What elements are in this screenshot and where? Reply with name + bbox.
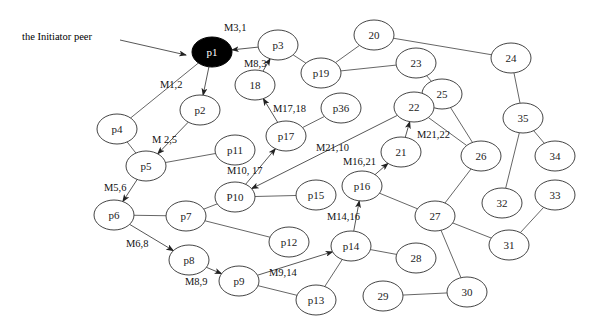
initiator-pointer-arrow (120, 40, 186, 55)
peer-node-p17: p17 (266, 121, 306, 151)
peer-node-30: 30 (447, 277, 487, 307)
peer-node-label: p9 (234, 275, 246, 287)
peer-node-p5: p5 (126, 151, 166, 181)
message-arrow-p16-21 (375, 163, 388, 174)
peer-node-label: p11 (227, 144, 243, 156)
initiator-label: the Initiator peer (22, 31, 92, 42)
peer-node-label: 35 (518, 112, 530, 124)
peer-node-24: 24 (491, 43, 531, 73)
peer-node-label: p14 (343, 240, 360, 252)
peer-node-35: 35 (503, 103, 543, 133)
peer-node-label: 29 (378, 290, 390, 302)
peer-node-label: 30 (462, 286, 474, 298)
edge-p14-p13 (325, 259, 343, 286)
message-arrow-21-22 (405, 122, 410, 138)
peer-node-label: p5 (141, 160, 153, 172)
peer-node-p15: p15 (296, 180, 336, 210)
edge-23-25 (427, 76, 432, 82)
peer-node-label: p12 (281, 236, 298, 248)
peer-node-31: 31 (489, 230, 529, 260)
peer-node-label: 26 (476, 150, 488, 162)
peer-node-p1: p1 (192, 37, 232, 67)
edge-p19-23 (341, 65, 396, 71)
peer-node-p8: p8 (169, 245, 209, 275)
edge-p19-20 (335, 45, 359, 62)
edge-p7-p12 (205, 221, 270, 237)
message-label: M 2,5 (152, 134, 177, 145)
edge-35-34 (534, 131, 545, 144)
peer-node-label: 34 (550, 150, 562, 162)
peer-node-label: p17 (278, 130, 295, 142)
message-label: M14,16 (327, 211, 360, 222)
edge-p14-28 (370, 250, 396, 255)
peer-node-p2: p2 (180, 95, 220, 125)
peer-node-p19: p19 (301, 58, 341, 88)
message-label: M16,21 (343, 156, 376, 167)
peer-node-label: 33 (550, 189, 562, 201)
edge-27-31 (453, 223, 492, 238)
peer-node-32: 32 (482, 188, 522, 218)
peer-node-p6: p6 (94, 200, 134, 230)
edge-29-30 (403, 293, 447, 295)
peer-node-label: 24 (506, 52, 518, 64)
peer-node-label: 23 (411, 57, 423, 69)
edge-p3-p19 (293, 55, 306, 63)
peer-node-label: p8 (184, 254, 196, 266)
peer-node-33: 33 (535, 180, 575, 210)
edge-25-26 (451, 108, 473, 143)
edge-24-35 (514, 73, 520, 103)
peer-node-label: 31 (504, 239, 515, 251)
peer-node-22: 22 (394, 92, 434, 122)
peer-node-label: p36 (333, 102, 350, 114)
peer-node-label: P10 (226, 191, 244, 203)
message-label: M8,9 (185, 276, 207, 287)
peer-node-label: 18 (250, 79, 262, 91)
message-label: M5,6 (104, 182, 126, 193)
message-label: M21,22 (417, 129, 450, 140)
edge-P10-p7 (204, 204, 217, 209)
peer-node-20: 20 (354, 20, 394, 50)
peer-node-p7: p7 (166, 201, 206, 231)
peer-node-label: p6 (109, 209, 121, 221)
peer-node-label: 25 (437, 88, 449, 100)
peer-node-21: 21 (381, 137, 421, 167)
edge-p5-p11 (165, 153, 215, 162)
message-label: M1,2 (160, 79, 182, 90)
peer-node-p13: p13 (296, 285, 336, 315)
edge-P10-p15 (255, 195, 296, 196)
edge-p4-p5 (127, 142, 136, 153)
peer-node-26: 26 (461, 141, 501, 171)
edge-27-30 (441, 230, 461, 277)
peer-node-p4: p4 (97, 114, 137, 144)
message-label: M10, 17 (227, 165, 263, 176)
peer-node-p14: p14 (331, 231, 371, 261)
peer-node-18: 18 (235, 70, 275, 100)
peer-node-p11: p11 (215, 135, 255, 165)
peer-node-p36: p36 (321, 93, 361, 123)
peer-node-label: p19 (313, 67, 330, 79)
peer-node-label: 27 (430, 210, 442, 222)
message-label: M17,18 (273, 103, 306, 114)
peer-node-label: 32 (497, 197, 508, 209)
edge-p9-p13 (258, 286, 297, 296)
edge-p17-p36 (303, 116, 325, 127)
peer-node-label: p13 (308, 294, 325, 306)
peer-node-28: 28 (396, 243, 436, 273)
peer-node-label: 21 (396, 146, 407, 158)
edge-26-27 (445, 169, 471, 203)
edge-35-32 (506, 133, 520, 189)
peer-node-27: 27 (415, 201, 455, 231)
peer-node-P10: P10 (215, 182, 255, 212)
message-label: M6,8 (126, 238, 148, 249)
peer-node-label: p1 (207, 46, 218, 58)
message-arrow-p3-p1 (232, 47, 258, 50)
message-label: M9,14 (269, 267, 297, 278)
message-label: M21,10 (316, 142, 349, 153)
peer-node-34: 34 (535, 141, 575, 171)
peer-node-label: p16 (354, 180, 371, 192)
peer-node-label: p4 (112, 123, 124, 135)
p2p-message-diagram: M3,1M1,2M8,3M17,18M 2,5M5,6M10, 17M21,10… (0, 0, 595, 332)
message-label: M8,3 (244, 58, 266, 69)
peer-node-label: p2 (195, 104, 206, 116)
peer-node-29: 29 (363, 281, 403, 311)
